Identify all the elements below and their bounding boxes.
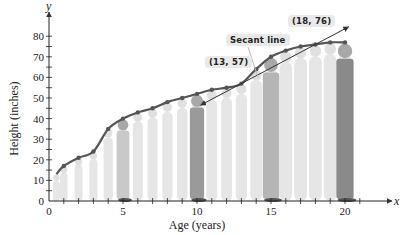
data-point: [136, 110, 140, 114]
y-tick-label: 10: [33, 174, 45, 186]
x-axis-title: Age (years): [169, 218, 225, 232]
figure-silhouette: [89, 152, 97, 201]
figure-silhouette: [177, 99, 188, 201]
figure-age-15: [263, 58, 282, 202]
y-tick-label: 40: [33, 113, 45, 125]
x-tick-label: 0: [46, 205, 52, 217]
y-tick-label: 50: [33, 92, 45, 104]
data-point: [150, 106, 154, 110]
y-axis-title: Height (inches): [7, 81, 21, 155]
data-point: [76, 156, 80, 160]
data-point: [298, 44, 302, 48]
y-tick-label: 30: [33, 133, 45, 145]
secant-line-label: Secant line: [226, 34, 290, 46]
y-tick-label: 20: [33, 154, 45, 166]
x-tick-label: 10: [192, 205, 204, 217]
figure-silhouette: [221, 88, 232, 201]
figure-silhouette: [294, 47, 307, 201]
data-point: [121, 116, 125, 120]
figure-silhouette: [53, 175, 60, 201]
y-tick-label: 70: [33, 51, 45, 63]
figure-silhouette: [206, 90, 217, 201]
point-label-18-76: (18, 76): [288, 15, 335, 27]
data-point: [62, 164, 66, 168]
y-tick-label: 0: [39, 195, 45, 207]
figure-silhouette: [250, 70, 262, 201]
figure-silhouette: [133, 113, 143, 201]
y-tick-label: 80: [33, 30, 45, 42]
x-tick-label: 20: [340, 205, 352, 217]
x-tick-label: 5: [120, 205, 126, 217]
data-point: [343, 40, 347, 44]
height-age-chart: 0510152001020304050607080Age (years)Heig…: [0, 0, 400, 235]
figure-silhouette: [162, 103, 172, 201]
point-label-13-57: (13, 57): [205, 56, 252, 68]
data-point: [224, 86, 228, 90]
figure-silhouette: [236, 84, 247, 201]
data-point: [195, 92, 199, 96]
x-axis-variable: x: [393, 194, 400, 208]
figure-silhouette: [75, 158, 83, 201]
data-point: [91, 149, 95, 153]
chart-canvas: 0510152001020304050607080Age (years)Heig…: [0, 0, 400, 235]
y-tick-label: 60: [33, 71, 45, 83]
figure-silhouette: [280, 51, 293, 201]
data-point: [165, 100, 169, 104]
data-point: [269, 55, 273, 59]
data-point: [284, 48, 288, 52]
data-point: [210, 88, 214, 92]
figure-silhouette: [60, 166, 68, 201]
data-point: [106, 127, 110, 131]
data-point: [328, 40, 332, 44]
figure-age-10: [190, 95, 207, 202]
x-tick-label: 15: [266, 205, 278, 217]
data-point: [180, 96, 184, 100]
figure-silhouette: [148, 109, 158, 201]
figure-age-20: [336, 44, 356, 202]
figure-silhouette: [104, 129, 113, 201]
y-axis-variable: y: [45, 0, 52, 13]
figure-silhouette: [309, 45, 322, 201]
figure-age-5: [117, 120, 132, 202]
figure-silhouette: [324, 43, 337, 201]
